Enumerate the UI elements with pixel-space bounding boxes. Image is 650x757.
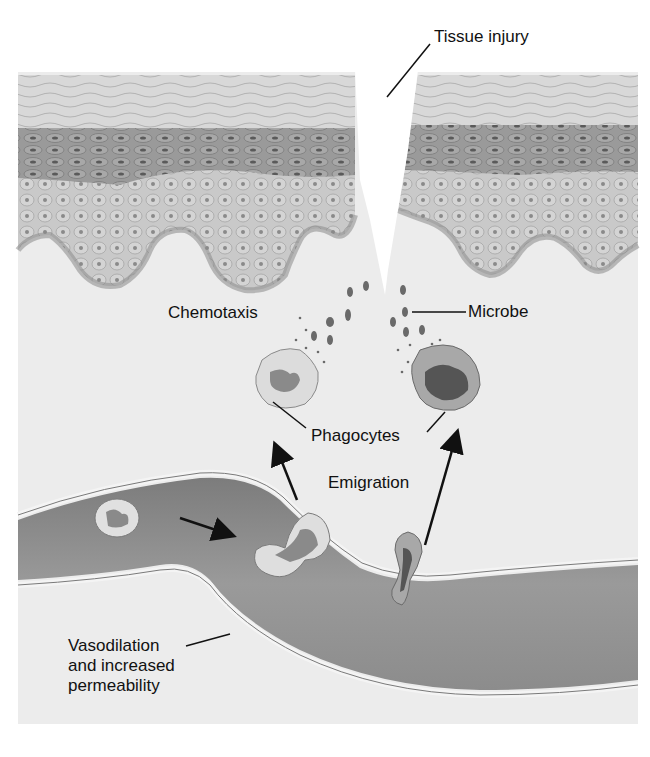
vasodilation-line-3: permeability [68, 676, 208, 696]
microbe-label: Microbe [468, 302, 528, 322]
vasodilation-line-1: Vasodilation [68, 636, 208, 656]
leukocyte-in-vessel [95, 499, 139, 537]
emigration-label: Emigration [328, 473, 409, 493]
chemotaxis-label: Chemotaxis [168, 303, 258, 323]
vasodilation-label: Vasodilation and increased permeability [68, 636, 208, 696]
phagocyte-left [256, 349, 318, 408]
tissue-injury-label: Tissue injury [434, 27, 529, 47]
phagocytes-label: Phagocytes [311, 426, 400, 446]
vasodilation-line-2: and increased [68, 656, 208, 676]
